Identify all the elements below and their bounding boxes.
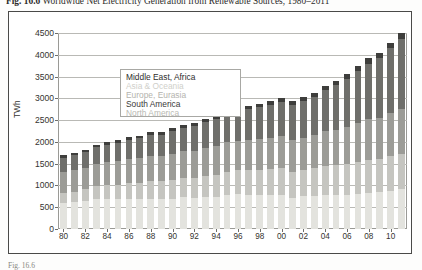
bar-segment xyxy=(71,202,78,229)
figure-caption: Fig. 16.6 Worldwide Net Electricity Gene… xyxy=(6,0,420,10)
bar-segment xyxy=(267,138,274,169)
bar-segment xyxy=(355,194,362,229)
bar-segment xyxy=(224,114,231,142)
y-axis-tick-label: 3500 xyxy=(35,73,54,82)
bar-segment xyxy=(256,139,263,170)
bar-segment xyxy=(60,158,67,172)
bar-segment xyxy=(300,196,307,229)
bar-series-group xyxy=(58,33,407,229)
y-axis-tick-label: 1000 xyxy=(35,181,54,190)
bar-segment xyxy=(289,140,296,173)
y-axis-tick-label: 4000 xyxy=(35,51,54,60)
x-axis-tick-label: 88 xyxy=(143,233,159,241)
bar-segment xyxy=(235,141,242,170)
bar-segment xyxy=(355,162,362,194)
bar-segment xyxy=(180,125,187,128)
bar-segment xyxy=(147,156,154,181)
bar-segment xyxy=(344,164,351,195)
bar-segment xyxy=(115,199,122,229)
x-axis-tick-label: 10 xyxy=(383,233,399,241)
figure-caption-text: Worldwide Net Electricity Generation fro… xyxy=(43,0,330,6)
bar-segment xyxy=(245,170,252,195)
bar-segment xyxy=(376,192,383,229)
bar-segment xyxy=(115,143,122,161)
bar-segment xyxy=(82,189,89,201)
bar-segment xyxy=(191,126,198,151)
bar-segment xyxy=(278,136,285,168)
bar-segment xyxy=(333,195,340,229)
y-axis-tick-label: 2000 xyxy=(35,138,54,147)
table-row xyxy=(71,153,78,229)
y-axis-tick-label: 500 xyxy=(40,203,54,212)
bar-segment xyxy=(126,159,133,183)
table-row xyxy=(136,136,143,229)
bar-segment xyxy=(398,33,405,39)
x-axis-tick-label: 80 xyxy=(55,233,71,241)
bar-segment xyxy=(136,138,143,158)
table-row xyxy=(180,125,187,229)
bar-segment xyxy=(278,102,285,136)
bar-segment xyxy=(169,154,176,180)
table-row xyxy=(169,128,176,229)
bar-segment xyxy=(256,170,263,195)
bar-segment xyxy=(213,119,220,146)
bar-segment xyxy=(169,128,176,131)
bar-segment xyxy=(344,79,351,127)
bar-segment xyxy=(71,155,78,170)
bar-segment xyxy=(267,195,274,229)
bar-segment xyxy=(311,135,318,168)
bar-segment xyxy=(365,193,372,229)
table-row xyxy=(213,116,220,229)
x-axis-tick-label: 86 xyxy=(121,233,137,241)
table-row xyxy=(387,43,394,229)
x-axis-tick-label: 08 xyxy=(361,233,377,241)
table-row xyxy=(289,101,296,229)
y-axis-tick-label: 4500 xyxy=(35,29,54,38)
bar-segment xyxy=(93,186,100,199)
table-row xyxy=(235,108,242,229)
x-axis-tick-label: 96 xyxy=(230,233,246,241)
bar-segment xyxy=(245,109,252,139)
legend-item: North America xyxy=(126,109,240,118)
bar-segment xyxy=(344,195,351,229)
bar-segment xyxy=(278,195,285,229)
table-row xyxy=(115,140,122,229)
bar-segment xyxy=(202,197,209,229)
x-axis-tick-label: 82 xyxy=(77,233,93,241)
table-row xyxy=(147,132,154,229)
bar-segment xyxy=(344,127,351,164)
table-row xyxy=(104,142,111,229)
bar-segment xyxy=(169,180,176,199)
bar-segment xyxy=(93,145,100,147)
bar-segment xyxy=(289,101,296,105)
x-axis-tick-label: 90 xyxy=(165,233,181,241)
x-axis-tick-label: 84 xyxy=(99,233,115,241)
table-row xyxy=(158,132,165,229)
bar-segment xyxy=(115,140,122,143)
bar-segment xyxy=(224,172,231,195)
bar-segment xyxy=(398,154,405,190)
bar-segment xyxy=(213,197,220,229)
bar-segment xyxy=(245,195,252,229)
bar-segment xyxy=(278,168,285,195)
bar-segment xyxy=(104,142,111,145)
bar-segment xyxy=(126,183,133,199)
bar-segment xyxy=(365,58,372,63)
bar-segment xyxy=(158,181,165,199)
bar-segment xyxy=(289,172,296,197)
bar-segment xyxy=(278,98,285,102)
bar-segment xyxy=(71,192,78,203)
table-row xyxy=(322,86,329,229)
bar-segment xyxy=(235,170,242,194)
bar-segment xyxy=(224,195,231,229)
bar-segment xyxy=(104,185,111,199)
bar-segment xyxy=(104,145,111,162)
x-axis-tick-label: 02 xyxy=(295,233,311,241)
bar-segment xyxy=(387,43,394,48)
bar-segment xyxy=(322,166,329,195)
bar-segment xyxy=(256,104,263,108)
table-row xyxy=(191,123,198,229)
y-axis-tick-label: 2500 xyxy=(35,116,54,125)
x-axis-tick-label: 00 xyxy=(274,233,290,241)
bar-segment xyxy=(136,183,143,200)
